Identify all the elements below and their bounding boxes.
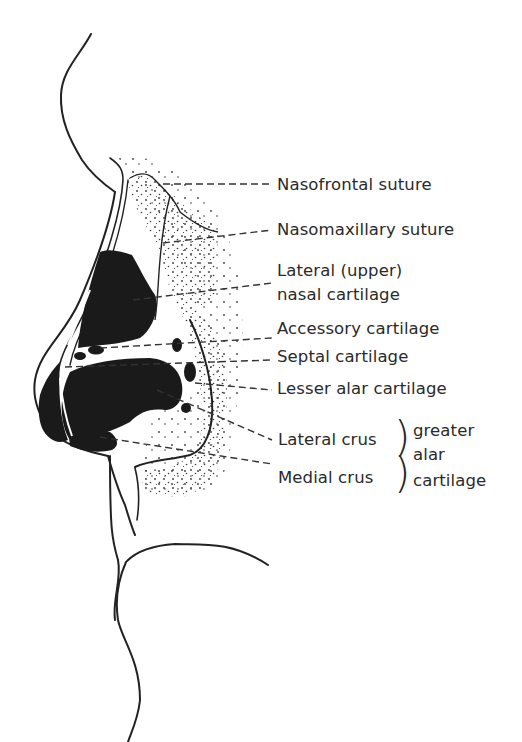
label-medial-crus: Medial crus bbox=[278, 467, 373, 489]
label-lateral-upper-line1: Lateral (upper) bbox=[277, 260, 402, 282]
lesser-alar-cartilage-1 bbox=[184, 362, 196, 382]
label-lesser-alar-cartilage: Lesser alar cartilage bbox=[277, 378, 447, 400]
label-nasofrontal-suture: Nasofrontal suture bbox=[277, 174, 432, 196]
accessory-cartilage-1 bbox=[74, 352, 86, 360]
accessory-cartilage-2 bbox=[88, 346, 104, 355]
greater-alar-brace-lower: ) bbox=[394, 452, 410, 496]
label-greater: greater bbox=[413, 420, 474, 442]
label-alar: alar bbox=[413, 444, 445, 466]
label-lateral-upper-line2: nasal cartilage bbox=[277, 284, 400, 306]
nose-anatomy-illustration bbox=[0, 0, 522, 742]
label-accessory-cartilage: Accessory cartilage bbox=[277, 318, 440, 340]
label-nasomaxillary-suture: Nasomaxillary suture bbox=[277, 219, 454, 241]
label-lateral-crus: Lateral crus bbox=[278, 429, 377, 451]
accessory-cartilage-3 bbox=[172, 338, 182, 352]
label-cartilage: cartilage bbox=[413, 470, 486, 492]
label-septal-cartilage: Septal cartilage bbox=[277, 346, 408, 368]
